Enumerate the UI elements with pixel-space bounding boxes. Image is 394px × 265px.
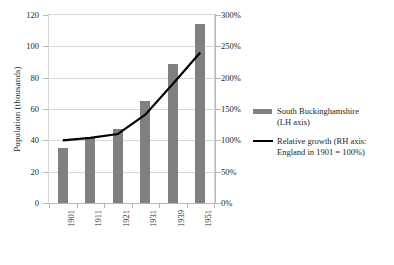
- right-axis-tick-label: 150%: [221, 105, 241, 114]
- right-axis-tick-label: 0%: [221, 199, 232, 208]
- x-axis-tick-label: 1901: [67, 210, 76, 227]
- x-axis-tick-mark: [49, 204, 50, 208]
- legend-label-line2: (LH axis): [277, 117, 391, 128]
- legend-label-line1: South Buckinghamshire: [277, 106, 359, 116]
- right-axis-tick-mark: [216, 140, 221, 141]
- right-axis-tick-mark: [216, 172, 221, 173]
- x-axis-tick-label: 1951: [204, 210, 213, 227]
- left-axis-tick-mark: [43, 46, 48, 47]
- right-axis-tick-label: 250%: [221, 42, 241, 51]
- right-axis-tick-mark: [216, 109, 221, 110]
- legend: South Buckinghamshire (LH axis) Relative…: [253, 106, 391, 166]
- x-axis-tick-label: 1921: [122, 210, 131, 227]
- x-axis-tick-label: 1911: [94, 210, 103, 227]
- right-axis-tick-mark: [216, 15, 221, 16]
- right-axis-tick-mark: [216, 46, 221, 47]
- right-axis-tick-mark: [216, 78, 221, 79]
- x-axis-tick-label: 1931: [149, 210, 158, 227]
- x-axis-tick-mark: [132, 204, 133, 208]
- left-axis-tick-mark: [43, 140, 48, 141]
- x-axis-tick-mark: [187, 204, 188, 208]
- left-axis-tick-mark: [43, 203, 48, 204]
- legend-entry-line-series: Relative growth (RH axis: England in 190…: [253, 136, 391, 157]
- right-axis-tick-label: 50%: [221, 167, 237, 176]
- x-axis-tick-label: 1939: [177, 210, 186, 227]
- left-axis-tick-mark: [43, 78, 48, 79]
- legend-label-line2: England in 1901 = 100%): [277, 147, 391, 158]
- right-axis-tick-label: 300%: [221, 11, 241, 20]
- relative-growth-line: [63, 53, 201, 141]
- left-axis-tick-mark: [43, 109, 48, 110]
- right-axis-tick-mark: [216, 203, 221, 204]
- left-axis-tick-mark: [43, 15, 48, 16]
- x-axis-tick-mark: [214, 204, 215, 208]
- right-axis-tick-label: 200%: [221, 73, 241, 82]
- bar-swatch-icon: [253, 109, 272, 114]
- x-axis-tick-mark: [77, 204, 78, 208]
- x-axis-tick-mark: [104, 204, 105, 208]
- legend-entry-bar-series: South Buckinghamshire (LH axis): [253, 106, 391, 127]
- legend-label-line1: Relative growth (RH axis:: [277, 136, 366, 146]
- left-axis-tick-mark: [43, 172, 48, 173]
- line-swatch-icon: [253, 140, 273, 142]
- right-axis-tick-label: 100%: [221, 136, 241, 145]
- x-axis-tick-mark: [159, 204, 160, 208]
- population-growth-chart: Population (thousands) 020406080100120 0…: [0, 0, 394, 265]
